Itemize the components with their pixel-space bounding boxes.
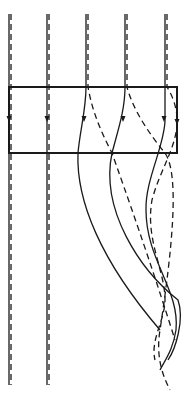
ray-diagram xyxy=(0,0,190,395)
arrowhead-icon xyxy=(162,116,167,122)
arrowhead-icon xyxy=(175,119,180,125)
ray-paths xyxy=(9,14,180,390)
ray-3-dashed xyxy=(88,14,175,340)
ray-4-solid xyxy=(110,14,181,360)
arrowheads xyxy=(7,116,180,125)
ray-4-dashed xyxy=(127,14,173,390)
ray-5-solid xyxy=(146,14,176,370)
region-box xyxy=(9,87,177,153)
